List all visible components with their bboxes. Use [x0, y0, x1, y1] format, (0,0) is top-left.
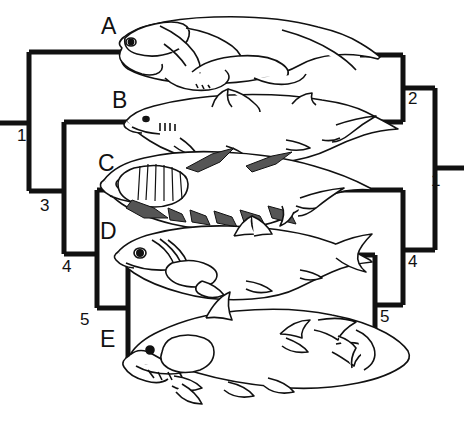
right-node-label-2: 2 — [408, 90, 417, 107]
right-node-label-4: 4 — [408, 253, 417, 270]
cladogram-figure: A B C D E 1 3 4 5 2 1 4 5 — [0, 0, 464, 426]
ray-finned-fish-icon — [114, 216, 372, 300]
fish-illustrations — [0, 0, 464, 426]
taxon-label-B: B — [112, 89, 127, 112]
right-node-label-5: 5 — [380, 308, 389, 325]
placoderm-fish-icon — [119, 17, 380, 91]
left-node-label-3: 3 — [40, 197, 49, 214]
caption-sliver — [0, 419, 464, 426]
taxon-label-D: D — [100, 220, 117, 243]
coelacanth-fish-icon — [123, 292, 409, 404]
right-node-label-1: 1 — [431, 172, 440, 189]
left-node-label-4: 4 — [62, 258, 71, 275]
left-node-label-5: 5 — [80, 311, 89, 328]
taxon-label-C: C — [98, 152, 115, 175]
acanthodian-fish-icon — [100, 148, 372, 229]
taxon-label-A: A — [101, 15, 116, 38]
left-node-label-1: 1 — [17, 127, 26, 144]
taxon-label-E: E — [100, 328, 115, 351]
